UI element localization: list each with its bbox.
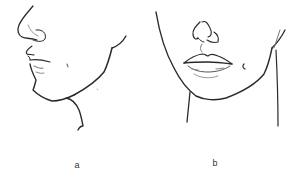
profile-sketch [0,0,150,179]
front-face-drawing: b [150,0,307,179]
figure-label-a: a [67,160,87,170]
front-sketch [150,0,307,179]
profile-face-drawing: a [0,0,150,179]
figure-label-b: b [205,158,225,168]
